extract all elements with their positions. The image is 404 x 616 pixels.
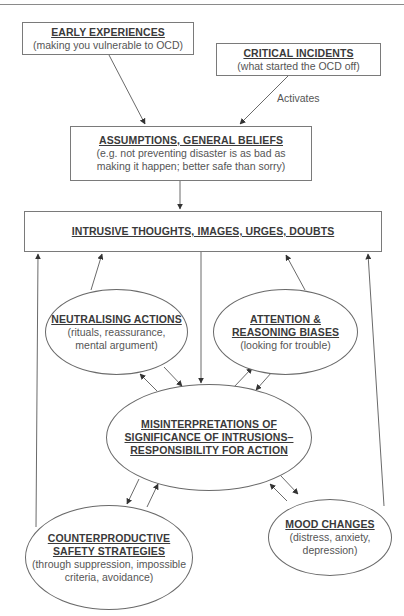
node-title-line2: SIGNIFICANCE OF INTRUSIONS–	[125, 431, 294, 444]
arrow-counterproductive-to-intrusive	[36, 254, 38, 527]
node-title: CRITICAL INCIDENTS	[243, 47, 353, 60]
node-subtitle-line2: making it happen; better safe than sorry…	[97, 160, 286, 173]
node-mood-changes: MOOD CHANGES (distress, anxiety, depress…	[268, 499, 392, 576]
node-subtitle: (looking for trouble)	[240, 339, 330, 352]
arrow-neutralising-to-intrusive	[91, 254, 102, 290]
arrow-counterproductive-to-misinterpretations	[147, 484, 158, 507]
node-title: INTRUSIVE THOUGHTS, IMAGES, URGES, DOUBT…	[72, 225, 335, 238]
arrow-attention-to-intrusive	[286, 255, 305, 290]
arrow-misinterpretations-to-mood	[281, 476, 298, 494]
node-attention-reasoning-biases: ATTENTION & REASONING BIASES (looking fo…	[213, 289, 358, 375]
node-title-line1: COUNTERPRODUCTIVE	[48, 532, 170, 545]
node-misinterpretations: MISINTERPRETATIONS OF SIGNIFICANCE OF IN…	[106, 384, 312, 491]
node-title-line2: SAFETY STRATEGIES	[53, 545, 165, 558]
node-subtitle-line2: criteria, avoidance)	[65, 571, 154, 584]
node-intrusive-thoughts: INTRUSIVE THOUGHTS, IMAGES, URGES, DOUBT…	[24, 211, 382, 252]
node-subtitle-line1: (e.g. not preventing disaster is as bad …	[96, 147, 285, 160]
node-title-line1: ATTENTION &	[250, 313, 321, 326]
node-subtitle-line1: (rituals, reassurance,	[67, 326, 165, 339]
node-subtitle-line2: depression)	[303, 544, 358, 557]
node-assumptions: ASSUMPTIONS, GENERAL BELIEFS (e.g. not p…	[70, 126, 312, 181]
node-subtitle: (what started the OCD off)	[237, 60, 359, 73]
node-subtitle-line1: (through suppression, impossible	[32, 558, 186, 571]
arrow-misinterpretations-to-neutralising	[140, 374, 157, 391]
node-title: MOOD CHANGES	[285, 518, 374, 531]
node-title-line1: MISINTERPRETATIONS OF	[141, 418, 277, 431]
node-title: ASSUMPTIONS, GENERAL BELIEFS	[99, 134, 283, 147]
node-subtitle-line2: mental argument)	[75, 339, 157, 352]
node-critical-incidents: CRITICAL INCIDENTS (what started the OCD…	[216, 43, 381, 76]
node-subtitle-line1: (distress, anxiety,	[290, 531, 371, 544]
node-subtitle: (making you vulnerable to OCD)	[33, 39, 183, 52]
node-title: EARLY EXPERIENCES	[51, 26, 165, 39]
node-title: NEUTRALISING ACTIONS	[51, 313, 182, 326]
activates-label: Activates	[277, 92, 320, 104]
node-early-experiences: EARLY EXPERIENCES (making you vulnerable…	[22, 22, 194, 55]
node-title-line2: REASONING BIASES	[232, 326, 339, 339]
arrow-misinterpretations-to-attention	[234, 368, 252, 387]
arrow-mood-to-intrusive	[368, 254, 384, 506]
node-neutralising-actions: NEUTRALISING ACTIONS (rituals, reassuran…	[45, 289, 188, 375]
arrow-neutralising-to-misinterpretations	[164, 367, 182, 386]
arrow-attention-to-misinterpretations	[256, 372, 272, 390]
node-title-line3: RESPONSIBILITY FOR ACTION	[130, 444, 288, 457]
arrow-early-to-assumptions	[109, 55, 145, 124]
arrow-mood-to-misinterpretations	[270, 484, 287, 501]
node-counterproductive-safety-strategies: COUNTERPRODUCTIVE SAFETY STRATEGIES (thr…	[25, 505, 193, 610]
arrow-misinterpretations-to-counterproductive	[127, 479, 139, 504]
